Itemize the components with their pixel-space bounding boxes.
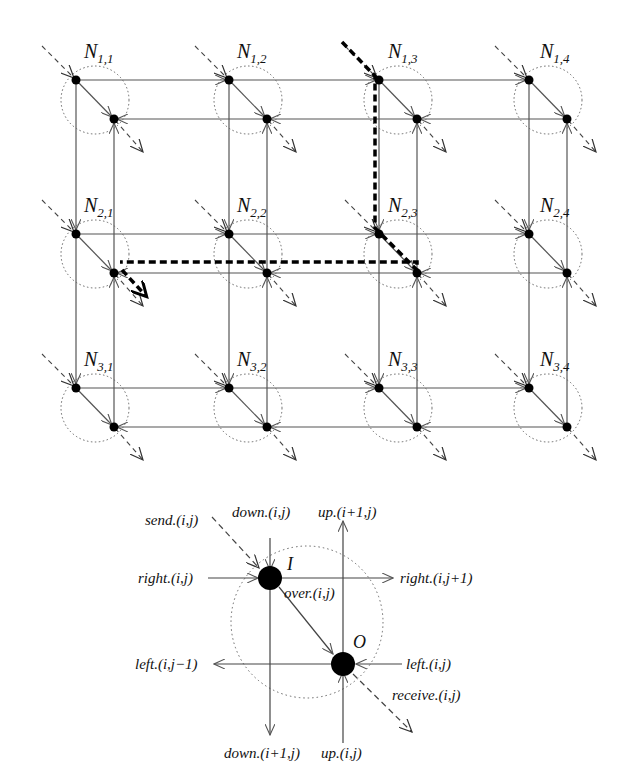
label-n-3-1: N3,1 [83, 348, 114, 374]
label-n-2-3: N2,3 [387, 194, 418, 220]
label-down-in: down.(i,j) [232, 504, 290, 521]
label-left-out: left.(i,j−1) [135, 656, 198, 673]
label-up-out: up.(i+1,j) [318, 504, 376, 521]
label-receive: receive.(i,j) [392, 687, 461, 704]
label-send: send.(i,j) [145, 512, 198, 529]
output-node-O [331, 652, 355, 676]
node-labels: N1,1 N1,2 N1,3 N1,4 N2,1 N2,2 N2,3 N2,4 … [83, 40, 570, 374]
label-n-2-4: N2,4 [539, 194, 570, 220]
label-right-out: right.(i,j+1) [400, 570, 473, 587]
label-n-1-1: N1,1 [83, 40, 114, 66]
mesh-grid [76, 80, 567, 427]
label-up-in: up.(i,j) [321, 745, 362, 762]
label-right-in: right.(i,j) [138, 570, 193, 587]
label-left-in: left.(i,j) [406, 656, 451, 673]
grid-nodes [42, 46, 596, 460]
label-down-out: down.(i+1,j) [224, 745, 300, 762]
label-n-1-2: N1,2 [236, 40, 267, 66]
node-detail: I O send.(i,j) down.(i,j) up.(i+1,j) rig… [135, 504, 473, 762]
label-n-1-3: N1,3 [387, 40, 418, 66]
label-over: over.(i,j) [284, 585, 335, 602]
mesh-network-diagram: N1,1 N1,2 N1,3 N1,4 N2,1 N2,2 N2,3 N2,4 … [0, 0, 631, 779]
label-I: I [286, 554, 294, 574]
label-n-2-1: N2,1 [83, 194, 114, 220]
input-node-I [258, 566, 282, 590]
label-n-3-3: N3,3 [387, 348, 418, 374]
label-n-1-4: N1,4 [539, 40, 570, 66]
label-n-3-4: N3,4 [539, 348, 570, 374]
label-n-2-2: N2,2 [236, 194, 267, 220]
label-n-3-2: N3,2 [236, 348, 267, 374]
label-O: O [353, 632, 366, 652]
